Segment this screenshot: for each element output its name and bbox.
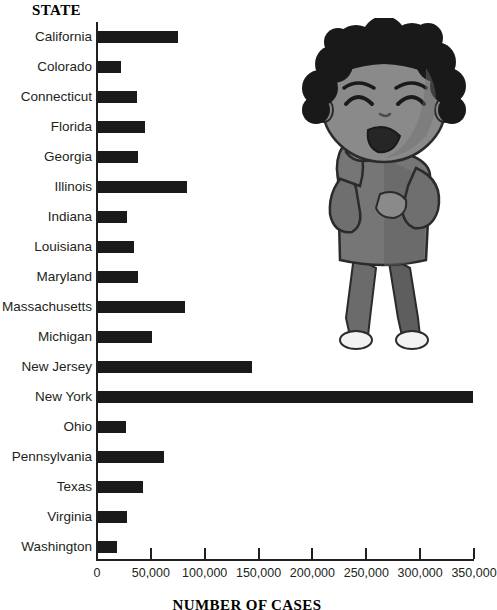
y-axis-tick-label: Texas	[57, 472, 92, 502]
bar	[97, 241, 134, 253]
bar-track	[97, 442, 487, 472]
bar	[97, 511, 127, 523]
x-axis-tick	[96, 548, 98, 559]
x-axis-line	[96, 559, 474, 561]
bar	[97, 421, 126, 433]
bar	[97, 331, 152, 343]
y-axis-title: STATE	[32, 2, 81, 19]
bar	[97, 481, 143, 493]
x-axis-tick-label: 0	[94, 566, 101, 580]
bar-track	[97, 382, 487, 412]
y-axis-tick-label: Virginia	[47, 502, 92, 532]
bar-row: New York	[0, 382, 494, 412]
x-axis-tick	[365, 548, 367, 559]
bar	[97, 31, 178, 43]
y-axis-tick-label: Florida	[51, 112, 92, 142]
bar-track	[97, 532, 487, 562]
bar-row: Ohio	[0, 412, 494, 442]
y-axis-line	[96, 22, 98, 560]
y-axis-tick-label: Massachusetts	[2, 292, 92, 322]
x-axis-tick-label: 350,000	[451, 566, 496, 580]
y-axis-tick-label: Michigan	[38, 322, 92, 352]
x-axis-tick-label: 50,000	[132, 566, 170, 580]
bar	[97, 61, 121, 73]
x-axis-tick	[258, 548, 260, 559]
x-axis-tick-label: 150,000	[236, 566, 281, 580]
x-axis-tick-label: 250,000	[344, 566, 389, 580]
bar	[97, 121, 145, 133]
y-axis-tick-label: Georgia	[44, 142, 92, 172]
y-axis-tick-label: Pennsylvania	[12, 442, 92, 472]
child-coughing-illustration	[276, 18, 492, 370]
bar-row: Pennsylvania	[0, 442, 494, 472]
y-axis-tick-label: Maryland	[36, 262, 92, 292]
x-axis-tick	[150, 548, 152, 559]
y-axis-tick-label: Louisiana	[34, 232, 92, 262]
bar-row: Texas	[0, 472, 494, 502]
bar	[97, 451, 164, 463]
x-axis-tick-label: 100,000	[182, 566, 227, 580]
y-axis-tick-label: New York	[35, 382, 92, 412]
bar	[97, 541, 117, 553]
bar	[97, 301, 185, 313]
bar	[97, 271, 138, 283]
x-axis-tick	[419, 548, 421, 559]
bar	[97, 91, 137, 103]
y-axis-tick-label: Illinois	[54, 172, 92, 202]
y-axis-tick-label: Washington	[21, 532, 92, 562]
y-axis-tick-label: California	[35, 22, 92, 52]
bar	[97, 181, 187, 193]
bar	[97, 211, 127, 223]
y-axis-tick-label: Indiana	[48, 202, 92, 232]
x-axis-tick	[204, 548, 206, 559]
x-axis-title: NUMBER OF CASES	[0, 597, 494, 610]
x-axis-tick-label: 200,000	[290, 566, 335, 580]
x-axis-tick	[311, 548, 313, 559]
bar-track	[97, 502, 487, 532]
bar-track	[97, 472, 487, 502]
bar	[97, 361, 252, 373]
y-axis-tick-label: Ohio	[63, 412, 92, 442]
y-axis-tick-label: New Jersey	[21, 352, 92, 382]
y-axis-tick-label: Connecticut	[21, 82, 92, 112]
x-axis-tick	[473, 548, 475, 559]
bar-row: Virginia	[0, 502, 494, 532]
bar	[97, 151, 138, 163]
bar	[97, 391, 473, 403]
y-axis-tick-label: Colorado	[37, 52, 92, 82]
x-axis-tick-label: 300,000	[398, 566, 443, 580]
bar-track	[97, 412, 487, 442]
